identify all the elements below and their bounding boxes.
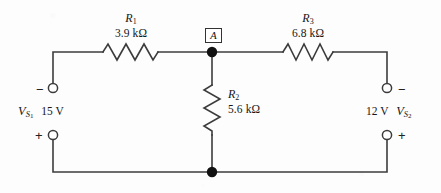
resistor-r1-name: R1 — [100, 12, 162, 27]
vs2-value: 12 V — [366, 105, 388, 117]
resistor-r2-value: 5.6 kΩ — [228, 103, 286, 116]
vs2-label: 12 V VS2 — [366, 104, 412, 121]
vs1-label: VS1 15 V — [18, 104, 64, 121]
resistor-r2-name: R2 — [228, 88, 286, 103]
vs1-negative-terminal-icon — [48, 83, 57, 92]
resistor-r2-label: R2 5.6 kΩ — [228, 88, 286, 116]
resistor-r3-symbol — [283, 44, 333, 60]
node-a-label-box: A — [205, 28, 222, 43]
resistor-r1-symbol — [103, 44, 158, 60]
vs2-positive-terminal-icon — [382, 130, 391, 139]
vs2-negative-polarity-sign: − — [398, 83, 406, 96]
resistor-r3-value: 6.8 kΩ — [277, 27, 339, 40]
vs2-positive-polarity-sign: + — [398, 129, 406, 142]
left-top-wire — [53, 52, 103, 88]
node-a-label-text: A — [210, 30, 216, 41]
vs2-name: VS2 — [396, 104, 411, 118]
vs1-negative-polarity-sign: − — [36, 83, 44, 96]
resistor-r3-name: R3 — [277, 12, 339, 27]
resistor-r3-label: R3 6.8 kΩ — [277, 12, 339, 40]
vs1-positive-polarity-sign: + — [35, 129, 43, 142]
ground-junction-dot — [207, 167, 217, 177]
vs2-negative-terminal-icon — [382, 83, 391, 92]
vs1-positive-terminal-icon — [48, 130, 57, 139]
circuit-diagram-canvas: A R1 3.9 kΩ R3 6.8 kΩ R2 5.6 kΩ − + VS1 … — [0, 0, 441, 193]
right-top-wire — [333, 52, 387, 88]
bottom-rail-wire — [53, 135, 387, 172]
node-a-junction-dot — [207, 47, 217, 57]
resistor-r1-label: R1 3.9 kΩ — [100, 12, 162, 40]
resistor-r1-value: 3.9 kΩ — [100, 27, 162, 40]
resistor-r2-symbol — [204, 85, 220, 135]
vs1-name: VS1 — [18, 104, 33, 118]
vs1-value: 15 V — [41, 105, 63, 117]
